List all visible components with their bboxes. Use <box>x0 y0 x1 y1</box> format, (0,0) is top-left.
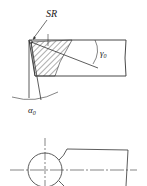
gamma-label: γ0 <box>100 48 107 59</box>
tool-top-view <box>10 138 137 186</box>
hatched-region <box>31 40 72 76</box>
alpha-label: α0 <box>28 105 36 116</box>
tool-side-view <box>12 20 126 100</box>
tool-diagram: SR γ0 α0 <box>0 0 147 186</box>
sr-label: SR <box>46 8 57 19</box>
